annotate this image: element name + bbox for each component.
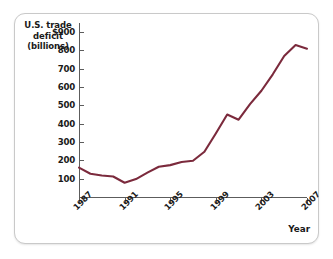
x-axis-title: Year (288, 224, 310, 234)
trade-deficit-line (79, 45, 307, 183)
figure-card: U.S. trade deficit (billions) $900800700… (14, 13, 319, 244)
chart-plot-area: U.S. trade deficit (billions) $900800700… (15, 14, 320, 245)
chart-series-svg (15, 14, 320, 245)
